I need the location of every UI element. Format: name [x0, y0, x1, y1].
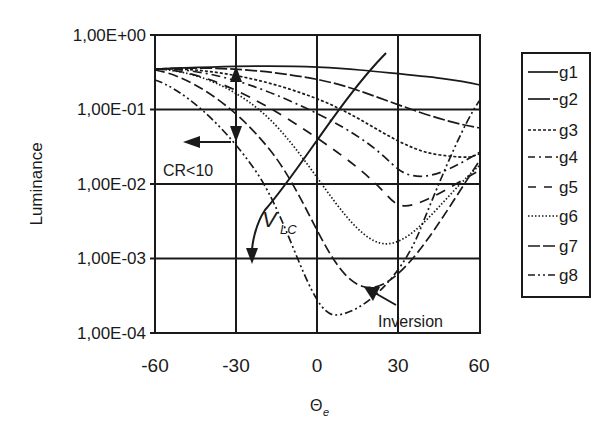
legend-item-g7: g7	[559, 237, 578, 256]
cr-label: CR<10	[163, 162, 213, 179]
y-tick: 1,00E+00	[73, 26, 146, 45]
vlc-label-main: V	[262, 207, 279, 232]
legend-item-g5: g5	[559, 178, 578, 197]
legend-item-g3: g3	[559, 121, 578, 140]
x-tick: -30	[222, 355, 249, 376]
vlc-label: V LC	[262, 207, 297, 237]
inversion-label: Inversion	[378, 313, 443, 330]
luminance-chart: 1,00E+00 1,00E-01 1,00E-02 1,00E-03 1,00…	[0, 0, 614, 431]
legend-item-g2: g2	[559, 90, 578, 109]
grid	[155, 35, 480, 333]
y-axis-label: Luminance	[27, 142, 46, 225]
y-tick: 1,00E-03	[77, 249, 146, 268]
y-tick: 1,00E-02	[77, 175, 146, 194]
legend-item-g6: g6	[559, 207, 578, 226]
y-tick: 1,00E-04	[77, 324, 146, 343]
x-tick: 30	[387, 355, 408, 376]
y-axis-ticks: 1,00E+00 1,00E-01 1,00E-02 1,00E-03 1,00…	[73, 26, 146, 343]
x-tick: 0	[312, 355, 323, 376]
y-tick: 1,00E-01	[77, 100, 146, 119]
vlc-label-sub: LC	[280, 222, 297, 237]
legend-item-g4: g4	[559, 148, 578, 167]
x-axis-label-main: Θ	[310, 397, 322, 414]
x-axis-ticks: -60 -30 0 30 60	[141, 355, 489, 376]
legend: g1 g2 g3 g4 g5 g6 g7 g8	[522, 53, 590, 297]
x-axis-label: Θ e	[310, 397, 329, 418]
x-axis-label-sub: e	[323, 406, 329, 418]
legend-item-g1: g1	[559, 63, 578, 82]
cr-arrows	[183, 66, 242, 148]
legend-item-g8: g8	[559, 266, 578, 285]
x-tick: 60	[468, 355, 489, 376]
x-tick: -60	[141, 355, 168, 376]
